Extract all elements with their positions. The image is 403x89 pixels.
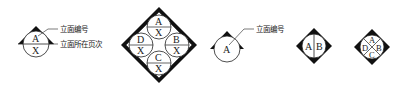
letter-left: A	[305, 41, 313, 52]
letter-bottom: C	[155, 52, 162, 63]
page-letter: X	[32, 45, 40, 56]
symbol-four-way: A B C D	[354, 29, 390, 65]
symbol-two-way: A B	[296, 28, 332, 64]
page-right: X	[173, 45, 181, 56]
letter-right: B	[376, 43, 382, 53]
elevation-letter: A	[32, 33, 40, 44]
letter-bottom: C	[369, 50, 375, 60]
letter-left: D	[137, 34, 144, 45]
page-bottom: X	[155, 63, 163, 74]
letter-right: B	[316, 41, 323, 52]
letter-top: A	[369, 35, 376, 45]
label-elevation-number: 立面编号	[60, 24, 88, 34]
symbol-single-with-page: A X 立面编号 立面所在页次	[18, 24, 103, 57]
page-left: X	[137, 45, 145, 56]
label-elevation-number: 立面编号	[256, 24, 284, 34]
letter-right: B	[173, 34, 180, 45]
symbol-single: A 立面编号	[210, 24, 284, 62]
page-top: X	[155, 27, 163, 38]
elevation-symbols-canvas: A X 立面编号 立面所在页次 A X B X C X D X A	[0, 0, 403, 89]
letter-left: D	[362, 43, 368, 53]
symbol-four-way-with-pages: A X B X C X D X	[121, 7, 197, 83]
elevation-letter: A	[223, 44, 231, 55]
letter-top: A	[155, 16, 163, 27]
label-elevation-page: 立面所在页次	[60, 39, 103, 49]
